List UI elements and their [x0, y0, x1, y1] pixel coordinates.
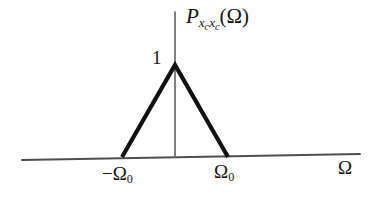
y-axis-label-argument: Ω	[226, 4, 242, 28]
tick-positive-symbol: Ω	[214, 161, 228, 182]
x-tick-label-negative-omega-zero: −Ω0	[102, 164, 133, 186]
y-axis-label-base: P	[186, 4, 199, 28]
x-tick-label-omega-zero: Ω0	[214, 162, 234, 184]
tick-positive-subscript: 0	[228, 170, 234, 184]
tick-negative-symbol: Ω	[113, 163, 127, 184]
tick-negative-subscript: 0	[127, 172, 133, 186]
tick-negative-sign: −	[102, 163, 113, 184]
y-axis-label-subscript: xcxc	[199, 15, 220, 30]
x-axis-line	[22, 154, 360, 160]
x-axis-label: Ω	[338, 158, 352, 177]
psd-triangle-figure: Pxcxc(Ω) 1 −Ω0 Ω0 Ω	[0, 0, 377, 200]
y-axis-label: Pxcxc(Ω)	[186, 6, 249, 32]
peak-value-label: 1	[152, 48, 162, 67]
y-axis-label-close-paren: )	[242, 4, 249, 28]
